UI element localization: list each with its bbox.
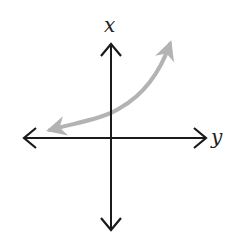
horizontal-axis-label: y xyxy=(210,125,223,149)
vertical-axis-label: x xyxy=(104,13,115,37)
axes-diagram: x y xyxy=(0,0,245,239)
